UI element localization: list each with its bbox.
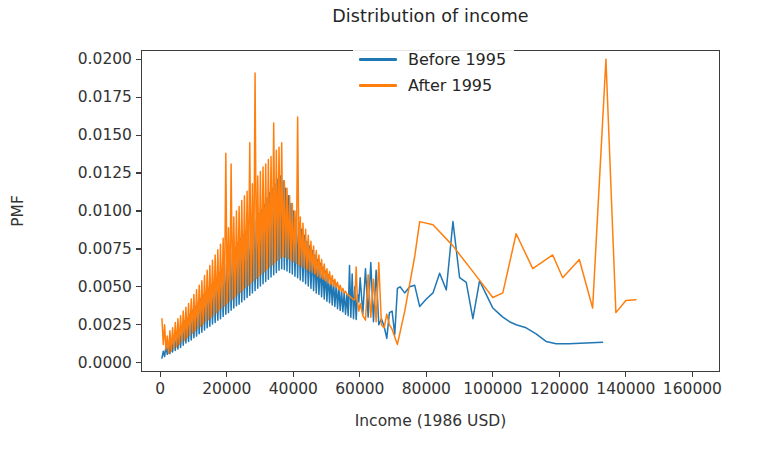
x-tick-label: 120000	[530, 380, 589, 398]
y-tick-label: 0.0075	[78, 240, 132, 258]
x-tick-label: 40000	[269, 380, 318, 398]
x-tick-label: 0	[155, 380, 165, 398]
x-tick-mark	[293, 372, 294, 377]
x-tick-mark	[426, 372, 427, 377]
y-tick-label: 0.0150	[78, 126, 132, 144]
chart-figure: Distribution of income PMF Income (1986 …	[0, 0, 757, 460]
y-tick-label: 0.0050	[78, 278, 132, 296]
y-axis-label: PMF	[9, 195, 27, 227]
x-tick-label: 160000	[663, 380, 722, 398]
x-tick-mark	[559, 372, 560, 377]
legend-swatch-icon	[359, 84, 397, 87]
legend-item-0[interactable]: Before 1995	[359, 46, 506, 72]
x-tick-label: 100000	[463, 380, 522, 398]
x-tick-mark	[359, 372, 360, 377]
chart-legend: Before 1995After 1995	[353, 42, 514, 102]
y-tick-label: 0.0200	[78, 50, 132, 68]
legend-label: After 1995	[408, 76, 492, 95]
y-tick-label: 0.0000	[78, 354, 132, 372]
y-tick-label: 0.0100	[78, 202, 132, 220]
legend-label: Before 1995	[408, 50, 506, 69]
y-tick-label: 0.0175	[78, 88, 132, 106]
x-tick-mark	[625, 372, 626, 377]
legend-swatch-icon	[359, 58, 397, 61]
x-tick-label: 20000	[202, 380, 251, 398]
x-tick-mark	[160, 372, 161, 377]
x-tick-mark	[226, 372, 227, 377]
chart-title: Distribution of income	[141, 6, 720, 26]
x-tick-label: 80000	[402, 380, 451, 398]
x-tick-label: 60000	[335, 380, 384, 398]
x-tick-label: 140000	[596, 380, 655, 398]
y-tick-label: 0.0025	[78, 316, 132, 334]
x-axis-label: Income (1986 USD)	[141, 412, 720, 430]
series-line-1	[162, 59, 636, 353]
x-tick-mark	[492, 372, 493, 377]
x-tick-mark	[692, 372, 693, 377]
legend-item-1[interactable]: After 1995	[359, 72, 506, 98]
y-tick-label: 0.0125	[78, 164, 132, 182]
